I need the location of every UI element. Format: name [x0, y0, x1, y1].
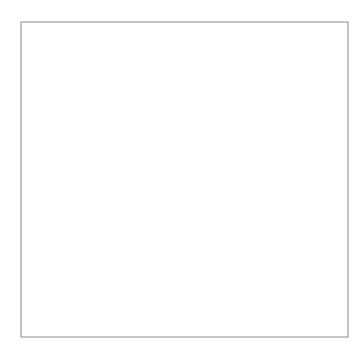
diagram-canvas: [0, 0, 363, 357]
geometric-diagram: [0, 0, 363, 357]
background: [0, 0, 363, 357]
